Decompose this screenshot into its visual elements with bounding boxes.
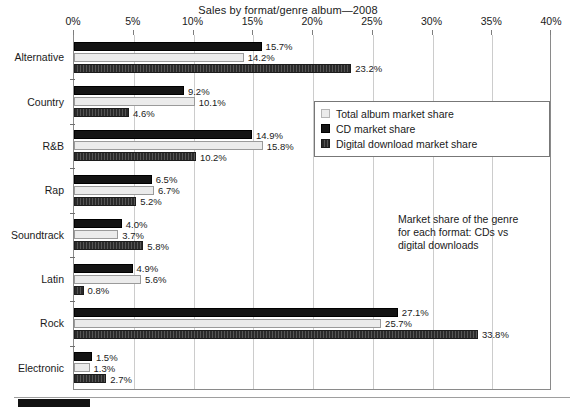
annotation-line-1: Market share of the genre xyxy=(398,213,558,226)
bar-value-label: 14.2% xyxy=(248,52,275,63)
category-separator-tick xyxy=(70,301,75,302)
bar-digital[interactable] xyxy=(74,286,84,295)
x-axis-tick-label: 0% xyxy=(65,15,80,27)
bar-value-label: 15.8% xyxy=(267,140,294,151)
y-axis-category-labels: AlternativeCountryR&BRapSoundtrackLatinR… xyxy=(0,35,68,390)
bar-value-label: 4.0% xyxy=(126,218,148,229)
legend-label-digital: Digital download market share xyxy=(336,138,477,150)
bar-cd[interactable] xyxy=(74,219,122,228)
bar-value-label: 5.6% xyxy=(145,274,167,285)
bar-value-label: 10.1% xyxy=(199,96,226,107)
annotation-line-3: digital downloads xyxy=(398,239,558,252)
bar-digital[interactable] xyxy=(74,152,196,161)
bar-value-label: 0.8% xyxy=(88,285,110,296)
bar-value-label: 14.9% xyxy=(256,129,283,140)
y-axis-label-rock: Rock xyxy=(40,317,64,329)
legend-swatch-digital-icon xyxy=(321,139,330,148)
x-axis-tick-label: 35% xyxy=(481,15,502,27)
bar-value-label: 6.7% xyxy=(158,185,180,196)
bar-value-label: 33.8% xyxy=(482,329,509,340)
y-axis-label-rap: Rap xyxy=(45,184,64,196)
bar-value-label: 5.8% xyxy=(147,240,169,251)
legend-swatch-total-icon xyxy=(321,109,330,118)
bar-cd[interactable] xyxy=(74,308,398,317)
legend-item-total[interactable]: Total album market share xyxy=(321,106,543,121)
chart-legend: Total album market share CD market share… xyxy=(314,101,550,157)
bar-digital[interactable] xyxy=(74,108,129,117)
category-separator-tick xyxy=(70,124,75,125)
legend-item-cd[interactable]: CD market share xyxy=(321,121,543,136)
legend-label-total: Total album market share xyxy=(336,108,454,120)
bar-total[interactable] xyxy=(74,97,195,106)
bar-value-label: 3.7% xyxy=(122,229,144,240)
bar-total[interactable] xyxy=(74,186,154,195)
bar-cd[interactable] xyxy=(74,42,262,51)
bar-value-label: 27.1% xyxy=(402,307,429,318)
bar-total[interactable] xyxy=(74,319,381,328)
x-axis-tick-label: 30% xyxy=(421,15,442,27)
bar-value-label: 15.7% xyxy=(266,41,293,52)
legend-item-digital[interactable]: Digital download market share xyxy=(321,136,543,151)
bar-value-label: 6.5% xyxy=(156,174,178,185)
x-axis-tick-label: 15% xyxy=(242,15,263,27)
bar-value-label: 25.7% xyxy=(385,318,412,329)
x-axis-tick-label: 25% xyxy=(361,15,382,27)
chart-annotation: Market share of the genre for each forma… xyxy=(398,213,558,252)
bar-digital[interactable] xyxy=(74,330,478,339)
category-separator-tick xyxy=(70,257,75,258)
bar-value-label: 1.5% xyxy=(96,351,118,362)
y-axis-label-soundtrack: Soundtrack xyxy=(11,229,64,241)
bar-cd[interactable] xyxy=(74,86,184,95)
bar-value-label: 4.9% xyxy=(137,263,159,274)
category-separator-tick xyxy=(70,346,75,347)
legend-label-cd: CD market share xyxy=(336,123,415,135)
bar-total[interactable] xyxy=(74,141,263,150)
x-axis-tick-label: 20% xyxy=(301,15,322,27)
bar-digital[interactable] xyxy=(74,64,351,73)
bar-total[interactable] xyxy=(74,275,141,284)
y-axis-label-electronic: Electronic xyxy=(18,362,64,374)
y-axis-label-alternative: Alternative xyxy=(14,51,64,63)
y-axis-label-country: Country xyxy=(27,96,64,108)
x-axis-tick-label: 5% xyxy=(125,15,140,27)
bar-digital[interactable] xyxy=(74,197,136,206)
bar-digital[interactable] xyxy=(74,241,143,250)
y-axis-label-r-b: R&B xyxy=(42,140,64,152)
category-separator-tick xyxy=(70,79,75,80)
bar-value-label: 23.2% xyxy=(355,63,382,74)
scrollbar-thumb[interactable] xyxy=(18,399,90,407)
bar-cd[interactable] xyxy=(74,352,92,361)
category-separator-tick xyxy=(70,213,75,214)
bar-cd[interactable] xyxy=(74,264,133,273)
bar-total[interactable] xyxy=(74,53,244,62)
page-divider xyxy=(14,397,570,398)
x-axis-tick-label: 40% xyxy=(540,15,561,27)
bar-cd[interactable] xyxy=(74,175,152,184)
bar-total[interactable] xyxy=(74,230,118,239)
bar-digital[interactable] xyxy=(74,374,106,383)
bar-cd[interactable] xyxy=(74,130,252,139)
bar-value-label: 5.2% xyxy=(140,196,162,207)
x-axis-tick-label: 10% xyxy=(182,15,203,27)
annotation-line-2: for each format: CDs vs xyxy=(398,226,558,239)
category-separator-tick xyxy=(70,168,75,169)
bar-value-label: 4.6% xyxy=(133,107,155,118)
bar-value-label: 1.3% xyxy=(94,362,116,373)
bar-total[interactable] xyxy=(74,363,90,372)
y-axis-label-latin: Latin xyxy=(41,273,64,285)
bar-value-label: 10.2% xyxy=(200,151,227,162)
bar-value-label: 9.2% xyxy=(188,85,210,96)
legend-swatch-cd-icon xyxy=(321,124,330,133)
bar-value-label: 2.7% xyxy=(110,373,132,384)
